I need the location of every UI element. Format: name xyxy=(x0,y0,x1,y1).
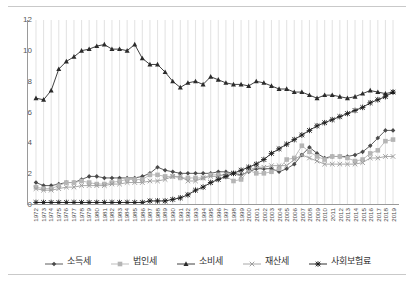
x-tick-label: 2018 xyxy=(382,208,389,222)
x-tick-label: 1997 xyxy=(222,208,229,222)
data-point xyxy=(246,164,252,170)
data-point xyxy=(337,114,343,120)
data-point xyxy=(33,200,39,204)
x-tick-label: 1995 xyxy=(207,208,214,222)
x-tick-label: 2014 xyxy=(352,208,359,222)
x-tick-label: 1980 xyxy=(93,208,100,222)
x-tick-label: 1988 xyxy=(154,208,161,222)
x-tick-label: 1989 xyxy=(161,208,168,222)
x-tick-label: 2005 xyxy=(283,208,290,222)
x-tick-label: 2012 xyxy=(337,208,344,222)
data-point xyxy=(49,88,54,93)
data-point xyxy=(383,94,389,100)
data-point xyxy=(102,42,107,47)
series-line xyxy=(36,45,393,100)
data-point xyxy=(383,139,388,144)
top-divider xyxy=(8,6,406,7)
data-point xyxy=(322,157,327,162)
plot-area xyxy=(27,20,399,205)
x-tick-label: 1977 xyxy=(70,208,77,222)
data-point xyxy=(368,88,373,93)
data-point xyxy=(79,179,84,184)
data-point xyxy=(353,153,358,158)
x-tick-label: 1978 xyxy=(78,208,85,222)
data-point xyxy=(291,137,297,143)
data-point xyxy=(307,150,312,155)
x-tick-label: 1973 xyxy=(40,208,47,222)
data-point xyxy=(163,168,168,173)
x-tick-label: 2017 xyxy=(375,208,382,222)
data-point xyxy=(48,200,54,204)
x-tick-label: 1985 xyxy=(131,208,138,222)
cross-marker-icon xyxy=(242,255,262,265)
x-tick-label: 1993 xyxy=(192,208,199,222)
data-point xyxy=(307,156,312,161)
data-point xyxy=(299,132,305,138)
square-marker-icon xyxy=(110,255,130,265)
data-point xyxy=(375,97,381,103)
data-point xyxy=(71,54,76,59)
data-point xyxy=(71,200,77,204)
data-point xyxy=(315,159,320,164)
data-point xyxy=(315,261,321,267)
x-tick-label: 1975 xyxy=(55,208,62,222)
data-point xyxy=(155,198,161,204)
x-tick-label: 2019 xyxy=(390,208,397,222)
data-point xyxy=(345,111,351,117)
data-point xyxy=(72,180,77,185)
bottom-divider xyxy=(8,274,406,275)
data-point xyxy=(254,79,259,84)
data-point xyxy=(51,262,56,267)
legend-item-3[interactable]: 재산세 xyxy=(242,254,289,267)
data-point xyxy=(223,174,229,180)
data-point xyxy=(94,200,100,204)
data-point xyxy=(261,157,267,163)
data-point xyxy=(367,100,373,106)
data-point xyxy=(64,180,69,185)
x-tick-label: 2011 xyxy=(329,208,336,221)
x-tick-label: 2004 xyxy=(276,208,283,222)
data-point xyxy=(178,195,184,201)
x-tick-label: 2006 xyxy=(291,208,298,222)
data-point xyxy=(322,120,328,126)
chart-legend: 소득세법인세소비세재산세사회보험료 xyxy=(8,250,406,270)
data-point xyxy=(132,200,138,204)
legend-label: 법인세 xyxy=(133,254,157,267)
legend-item-2[interactable]: 소비세 xyxy=(176,254,223,267)
x-tick-label: 1998 xyxy=(230,208,237,222)
data-point xyxy=(193,79,198,84)
x-tick-label: 1979 xyxy=(85,208,92,222)
data-point xyxy=(64,200,70,204)
data-point xyxy=(269,170,274,175)
legend-item-1[interactable]: 법인세 xyxy=(110,254,157,267)
x-tick-label: 1994 xyxy=(200,208,207,222)
data-point xyxy=(110,176,115,181)
legend-item-4[interactable]: 사회보험료 xyxy=(308,254,371,267)
data-point xyxy=(391,128,396,133)
x-tick-label: 1976 xyxy=(62,208,69,222)
data-point xyxy=(330,154,335,159)
x-tick-label: 1981 xyxy=(101,208,108,222)
x-tick-label: 1984 xyxy=(123,208,130,222)
x-tick-label: 1974 xyxy=(47,208,54,222)
x-tick-label: 1991 xyxy=(177,208,184,222)
legend-label: 사회보험료 xyxy=(331,254,371,267)
series-2 xyxy=(33,42,395,102)
data-point xyxy=(262,171,267,176)
data-point xyxy=(300,143,305,148)
data-point xyxy=(87,174,92,179)
data-point xyxy=(391,137,396,142)
data-point xyxy=(155,173,160,178)
data-point xyxy=(315,154,320,159)
x-tick-label: 1972 xyxy=(32,208,39,222)
data-point xyxy=(307,128,313,134)
data-point xyxy=(186,171,191,176)
x-tick-label: 2002 xyxy=(261,208,268,222)
data-point xyxy=(33,96,38,101)
data-point xyxy=(269,151,275,157)
data-point xyxy=(132,42,137,47)
x-tick-label: 2003 xyxy=(268,208,275,222)
data-point xyxy=(94,174,99,179)
legend-item-0[interactable]: 소득세 xyxy=(44,254,91,267)
legend-label: 소비세 xyxy=(199,254,223,267)
